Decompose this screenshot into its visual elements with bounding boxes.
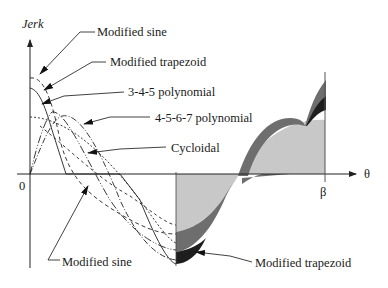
callout-modified-trapezoid-top: Modified trapezoid bbox=[110, 56, 206, 69]
fill-mid-right bbox=[242, 174, 290, 184]
curve-345 bbox=[30, 117, 176, 243]
callout-modified-trapezoid-bottom: Modified trapezoid bbox=[255, 257, 351, 270]
callout-modified-sine-bottom: Modified sine bbox=[62, 256, 132, 269]
shaded-regions bbox=[176, 80, 326, 264]
x-axis-label: θ bbox=[364, 168, 370, 181]
curve-modified-sine bbox=[30, 78, 176, 234]
curve-modified-sine-low bbox=[40, 126, 176, 225]
callout-4567-polynomial: 4-5-6-7 polynomial bbox=[155, 112, 253, 125]
y-axis-label: Jerk bbox=[22, 18, 44, 31]
beta-label: β bbox=[320, 186, 326, 199]
curve-4567 bbox=[30, 116, 176, 260]
curve-cycloidal bbox=[30, 112, 176, 250]
fill-light bbox=[176, 120, 325, 232]
callout-345-polynomial: 3-4-5 polynomial bbox=[128, 86, 215, 99]
callout-cycloidal: Cycloidal bbox=[171, 142, 220, 155]
origin-label: 0 bbox=[19, 180, 25, 193]
callout-modified-sine-top: Modified sine bbox=[97, 26, 167, 39]
jerk-curves bbox=[30, 78, 176, 264]
